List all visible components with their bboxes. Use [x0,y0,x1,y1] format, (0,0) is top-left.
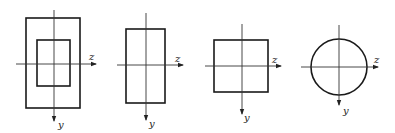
figure-hollow-rectangle: z y [16,10,96,130]
inner-rectangle [37,40,70,86]
y-axis-label: y [243,112,250,123]
figure-square: z y [205,24,281,123]
z-axis-label: z [373,54,380,65]
z-axis-label: z [88,51,95,62]
z-axis-label: z [271,54,278,65]
cross-section-diagrams: z y z y z y z y [0,0,395,133]
outer-rectangle [26,18,80,108]
y-axis-label: y [57,119,64,130]
figure-rectangle: z y [117,13,183,129]
y-axis-label: y [148,118,155,129]
y-axis-label: y [342,105,349,116]
z-axis-label: z [174,53,181,64]
rectangle [126,29,165,103]
figure-circle: z y [301,25,380,116]
